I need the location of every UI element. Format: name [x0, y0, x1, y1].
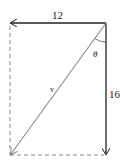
vertical-label: 16 — [109, 88, 121, 100]
horizontal-label: 12 — [52, 9, 63, 21]
angle-label: θ — [93, 49, 98, 59]
resultant-vector-arrow — [11, 23, 106, 154]
resultant-label: v — [50, 85, 54, 94]
angle-arc — [95, 39, 106, 43]
vector-diagram: 12 16 θ v — [0, 0, 122, 163]
